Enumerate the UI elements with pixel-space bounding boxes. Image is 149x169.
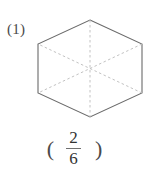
answer-paren-close: ) <box>95 138 102 160</box>
answer-row: ( 2 6 ) <box>0 128 149 169</box>
answer-paren-open: ( <box>47 138 54 160</box>
hexagon-svg <box>0 0 149 125</box>
fraction-denominator: 6 <box>67 149 80 168</box>
fraction-numerator: 2 <box>67 129 80 148</box>
answer-fraction: 2 6 <box>66 129 81 168</box>
hexagon-figure <box>0 0 149 125</box>
